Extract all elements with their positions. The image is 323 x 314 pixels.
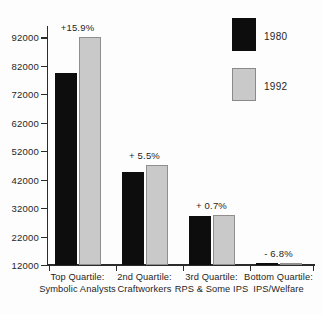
y-tick-mark [41, 180, 47, 181]
category-label-line: 3rd Quartile: [175, 272, 249, 284]
growth-annotation: + 0.7% [196, 200, 227, 211]
bar-1992-group-4 [280, 263, 302, 265]
y-tick-label: 52000 [12, 146, 39, 157]
growth-annotation: - 6.8% [264, 248, 293, 259]
y-tick-label: 82000 [12, 60, 39, 71]
category-label-line: Symbolic Analysts [39, 284, 116, 296]
y-tick-label: 72000 [12, 89, 39, 100]
x-axis-group-tick [183, 265, 184, 271]
bar-1992-group-2 [146, 165, 168, 265]
bar-chart: 1200022000320004200052000620007200082000… [0, 0, 323, 314]
category-label-line: 2nd Quartile: [117, 272, 172, 284]
x-axis-category-label: Top Quartile:Symbolic Analysts [39, 272, 116, 295]
y-tick-mark [41, 265, 47, 266]
y-tick-mark [41, 123, 47, 124]
bar-1980-group-3 [189, 216, 211, 265]
y-tick-label: 22000 [12, 231, 39, 242]
y-tick-mark [41, 37, 47, 38]
category-label-line: Bottom Quartile: [244, 272, 313, 284]
bar-1992-group-1 [79, 37, 101, 265]
y-tick-mark [41, 237, 47, 238]
y-tick-label: 42000 [12, 174, 39, 185]
y-tick-mark [41, 151, 47, 152]
y-tick-label: 32000 [12, 203, 39, 214]
bar-1980-group-2 [122, 172, 144, 265]
category-label-line: IPS/Welfare [244, 284, 313, 296]
category-label-line: Top Quartile: [39, 272, 116, 284]
y-tick-label: 12000 [12, 260, 39, 271]
legend-swatch-1980 [232, 18, 256, 51]
y-tick-mark [41, 66, 47, 67]
y-tick-mark [41, 208, 47, 209]
legend-label-1980: 1980 [264, 31, 287, 42]
x-axis-category-label: 2nd Quartile:Craftworkers [117, 272, 172, 295]
bar-1980-group-4 [256, 263, 278, 265]
y-tick-mark [41, 94, 47, 95]
legend-swatch-1992 [232, 68, 256, 101]
legend-label-1992: 1992 [264, 81, 287, 92]
x-axis-category-label: Bottom Quartile:IPS/Welfare [244, 272, 313, 295]
bar-1992-group-3 [213, 215, 235, 265]
bar-1980-group-1 [55, 73, 77, 265]
growth-annotation: + 5.5% [129, 150, 160, 161]
y-tick-label: 92000 [12, 32, 39, 43]
y-tick-label: 62000 [12, 117, 39, 128]
x-axis-group-tick [116, 265, 117, 271]
growth-annotation: +15.9% [61, 22, 95, 33]
x-axis-group-tick [250, 265, 251, 271]
category-label-line: Craftworkers [117, 284, 172, 296]
plot-area: 1200022000320004200052000620007200082000… [47, 26, 315, 265]
x-axis-category-label: 3rd Quartile:RPS & Some IPS [175, 272, 249, 295]
x-axis-group-tick [313, 265, 314, 271]
x-axis-group-tick [49, 265, 50, 271]
category-label-line: RPS & Some IPS [175, 284, 249, 296]
